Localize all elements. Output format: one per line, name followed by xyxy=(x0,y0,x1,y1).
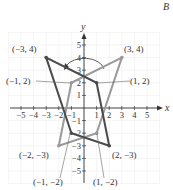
x-tick-label: 4 xyxy=(132,110,137,120)
x-tick-label: −4 xyxy=(29,110,39,120)
point-label: (3, 4) xyxy=(124,44,144,54)
point-label: (−1, −2) xyxy=(33,177,63,187)
point-label: (−2, −3) xyxy=(19,150,49,160)
point-label: (−3, 4) xyxy=(12,44,37,54)
y-axis-label: y xyxy=(80,21,86,32)
x-tick-label: 3 xyxy=(120,110,124,120)
x-tick-label: 2 xyxy=(107,110,111,120)
x-tick-label: −2 xyxy=(54,110,63,120)
corner-label: B xyxy=(163,1,169,12)
vertex-point xyxy=(57,144,61,148)
x-tick-label: −5 xyxy=(16,110,25,120)
x-axis-label: x xyxy=(164,102,170,113)
y-tick-label: 1 xyxy=(77,90,81,100)
x-tick-label: 5 xyxy=(145,110,149,120)
vertex-point xyxy=(95,81,99,85)
vertex-point xyxy=(120,56,124,60)
y-tick-label: −3 xyxy=(72,141,81,151)
x-axis-arrow-icon xyxy=(157,106,163,111)
vertex-point xyxy=(107,144,111,148)
point-label: (1, 2) xyxy=(130,76,150,86)
vertex-point xyxy=(70,81,74,85)
x-tick-label: −3 xyxy=(42,110,51,120)
point-label: (1, −2) xyxy=(93,177,118,187)
point-label: (2, −3) xyxy=(112,150,137,160)
coordinate-plane-figure: x y −5−4−3−2−11234554321−1−2−3−4−5 (−3, … xyxy=(0,0,173,190)
vertex-point xyxy=(44,56,48,60)
y-axis-arrow-icon xyxy=(82,33,87,39)
y-tick-label: 5 xyxy=(77,40,81,50)
light-quadrilateral xyxy=(59,58,122,146)
x-tick-label: 1 xyxy=(94,110,98,120)
y-tick-label: −1 xyxy=(72,116,81,126)
vertex-point xyxy=(95,131,99,135)
y-tick-label: −4 xyxy=(72,153,82,163)
y-tick-label: −5 xyxy=(72,166,81,176)
point-label: (−1, 2) xyxy=(6,76,31,86)
